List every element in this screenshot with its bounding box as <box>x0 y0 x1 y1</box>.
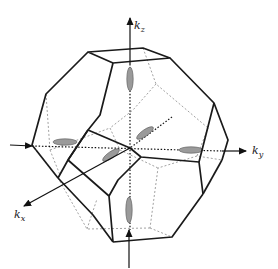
kz-label: kz <box>134 19 146 34</box>
edge <box>36 150 58 178</box>
edge <box>170 58 228 160</box>
edge <box>68 63 113 160</box>
edge <box>68 160 113 242</box>
ky-axis-left <box>10 145 32 146</box>
top-square-face <box>88 48 170 63</box>
ellipsoid-top <box>127 67 133 91</box>
hidden-edge <box>150 156 197 228</box>
ellipsoid-left <box>53 139 77 145</box>
axis-labels: kz ky kx <box>14 19 264 223</box>
ellipsoid-right <box>179 147 203 153</box>
hidden-edge <box>46 94 60 175</box>
edge <box>32 52 88 150</box>
ky-label: ky <box>252 144 264 159</box>
fermi-ellipsoids <box>53 67 203 223</box>
hidden-edge <box>58 178 150 229</box>
edge <box>203 160 222 194</box>
hidden-edge <box>110 128 158 168</box>
edge <box>109 157 141 196</box>
edge <box>58 178 113 242</box>
hidden-edge <box>150 228 172 237</box>
axes <box>10 18 246 268</box>
edge <box>58 130 88 178</box>
brillouin-zone-diagram: kz ky kx <box>0 0 278 269</box>
kx-label: kx <box>14 208 26 223</box>
ellipsoid-back <box>135 125 155 142</box>
ellipsoid-bottom <box>126 197 132 223</box>
edge <box>88 130 130 148</box>
hidden-edge <box>110 84 156 128</box>
